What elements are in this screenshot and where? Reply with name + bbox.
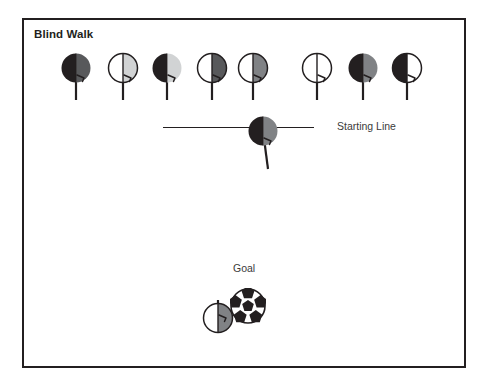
page-title: Blind Walk <box>34 28 93 40</box>
walker-figure-1 <box>56 50 96 106</box>
walker-figure-8 <box>387 50 427 106</box>
starting-line <box>163 127 314 128</box>
walker-figure-3 <box>147 50 187 106</box>
walker-figure-7 <box>343 50 383 106</box>
starting-line-label: Starting Line <box>337 120 396 132</box>
walker-figure-6 <box>297 50 337 106</box>
walker-figure-5 <box>233 50 273 106</box>
goal-label: Goal <box>233 262 255 274</box>
walker-on-starting-line <box>243 113 287 169</box>
walker-figure-4 <box>192 50 232 106</box>
walker-figure-2 <box>103 50 143 106</box>
diagram-canvas: Blind Walk <box>0 0 486 388</box>
walker-at-goal <box>198 300 238 356</box>
